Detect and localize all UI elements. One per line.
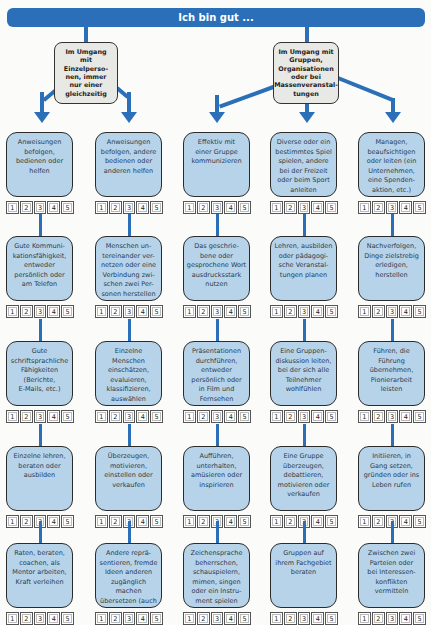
rating-option-1[interactable]: 1 [270,305,283,318]
rating-option-2[interactable]: 2 [197,305,210,318]
rating-option-3[interactable]: 3 [34,201,47,214]
rating-option-1[interactable]: 1 [270,515,283,528]
rating-option-2[interactable]: 2 [197,201,210,214]
rating-option-4[interactable]: 4 [311,201,324,214]
rating-option-1[interactable]: 1 [270,201,283,214]
rating-option-2[interactable]: 2 [372,305,385,318]
rating-option-3[interactable]: 3 [386,305,399,318]
rating-option-4[interactable]: 4 [224,201,237,214]
rating-option-5[interactable]: 5 [413,612,426,625]
rating-option-5[interactable]: 5 [413,305,426,318]
rating-option-5[interactable]: 5 [150,410,163,423]
rating-option-5[interactable]: 5 [150,612,163,625]
rating-option-3[interactable]: 3 [123,305,136,318]
rating-option-3[interactable]: 3 [386,612,399,625]
rating-option-4[interactable]: 4 [224,410,237,423]
rating-option-5[interactable]: 5 [413,201,426,214]
rating-option-5[interactable]: 5 [61,201,74,214]
rating-option-1[interactable]: 1 [95,305,108,318]
rating-option-1[interactable]: 1 [358,515,371,528]
rating-option-1[interactable]: 1 [95,410,108,423]
rating-option-1[interactable]: 1 [270,410,283,423]
rating-option-3[interactable]: 3 [34,410,47,423]
rating-option-2[interactable]: 2 [372,612,385,625]
rating-option-5[interactable]: 5 [61,305,74,318]
rating-option-1[interactable]: 1 [6,305,19,318]
rating-option-4[interactable]: 4 [136,515,149,528]
rating-option-2[interactable]: 2 [284,410,297,423]
rating-option-4[interactable]: 4 [136,201,149,214]
rating-option-5[interactable]: 5 [238,201,251,214]
rating-option-4[interactable]: 4 [399,612,412,625]
rating-option-1[interactable]: 1 [6,515,19,528]
rating-option-2[interactable]: 2 [20,515,33,528]
rating-option-4[interactable]: 4 [224,612,237,625]
rating-option-5[interactable]: 5 [61,612,74,625]
rating-option-2[interactable]: 2 [20,201,33,214]
rating-option-4[interactable]: 4 [311,410,324,423]
rating-option-3[interactable]: 3 [34,612,47,625]
rating-option-1[interactable]: 1 [95,515,108,528]
rating-option-1[interactable]: 1 [183,305,196,318]
rating-option-4[interactable]: 4 [47,305,60,318]
rating-option-3[interactable]: 3 [211,201,224,214]
rating-option-4[interactable]: 4 [399,515,412,528]
rating-option-2[interactable]: 2 [372,515,385,528]
rating-option-2[interactable]: 2 [197,515,210,528]
rating-option-1[interactable]: 1 [6,410,19,423]
rating-option-3[interactable]: 3 [123,201,136,214]
rating-option-1[interactable]: 1 [95,201,108,214]
rating-option-2[interactable]: 2 [197,410,210,423]
rating-option-3[interactable]: 3 [386,410,399,423]
rating-option-1[interactable]: 1 [183,201,196,214]
rating-option-5[interactable]: 5 [150,305,163,318]
rating-option-2[interactable]: 2 [284,201,297,214]
rating-option-3[interactable]: 3 [34,305,47,318]
rating-option-1[interactable]: 1 [358,201,371,214]
rating-option-5[interactable]: 5 [325,410,338,423]
rating-option-4[interactable]: 4 [399,305,412,318]
rating-option-5[interactable]: 5 [238,305,251,318]
rating-option-5[interactable]: 5 [325,201,338,214]
rating-option-4[interactable]: 4 [136,612,149,625]
rating-option-5[interactable]: 5 [150,515,163,528]
rating-option-4[interactable]: 4 [136,410,149,423]
rating-option-4[interactable]: 4 [47,515,60,528]
rating-option-3[interactable]: 3 [211,305,224,318]
rating-option-5[interactable]: 5 [61,410,74,423]
rating-option-3[interactable]: 3 [298,305,311,318]
rating-option-4[interactable]: 4 [311,612,324,625]
rating-option-2[interactable]: 2 [284,305,297,318]
rating-option-5[interactable]: 5 [325,515,338,528]
rating-option-4[interactable]: 4 [47,410,60,423]
rating-option-2[interactable]: 2 [284,515,297,528]
rating-option-2[interactable]: 2 [20,612,33,625]
rating-option-4[interactable]: 4 [224,515,237,528]
rating-option-3[interactable]: 3 [211,612,224,625]
rating-option-5[interactable]: 5 [413,515,426,528]
rating-option-4[interactable]: 4 [136,305,149,318]
rating-option-4[interactable]: 4 [311,305,324,318]
rating-option-2[interactable]: 2 [109,612,122,625]
rating-option-2[interactable]: 2 [109,515,122,528]
rating-option-5[interactable]: 5 [61,515,74,528]
rating-option-2[interactable]: 2 [20,410,33,423]
rating-option-5[interactable]: 5 [413,410,426,423]
rating-option-3[interactable]: 3 [298,612,311,625]
rating-option-4[interactable]: 4 [47,201,60,214]
rating-option-1[interactable]: 1 [358,410,371,423]
rating-option-3[interactable]: 3 [123,612,136,625]
rating-option-5[interactable]: 5 [150,201,163,214]
rating-option-2[interactable]: 2 [109,410,122,423]
rating-option-1[interactable]: 1 [183,410,196,423]
rating-option-3[interactable]: 3 [386,201,399,214]
rating-option-1[interactable]: 1 [6,612,19,625]
rating-option-3[interactable]: 3 [298,201,311,214]
rating-option-5[interactable]: 5 [325,612,338,625]
rating-option-1[interactable]: 1 [95,612,108,625]
rating-option-2[interactable]: 2 [109,305,122,318]
rating-option-2[interactable]: 2 [20,305,33,318]
rating-option-2[interactable]: 2 [109,201,122,214]
rating-option-5[interactable]: 5 [238,515,251,528]
rating-option-1[interactable]: 1 [6,201,19,214]
